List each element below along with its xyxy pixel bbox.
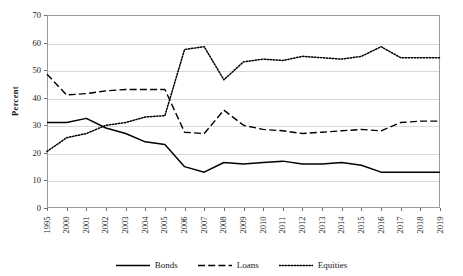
- x-axis-tick-label: 2002: [101, 216, 110, 233]
- chart-container: Percent 01020304050607019952000200120022…: [0, 0, 463, 276]
- x-axis-tick-mark: [67, 208, 68, 211]
- y-axis-tick-label: 30: [21, 121, 41, 130]
- legend-label: Loans: [237, 261, 259, 270]
- legend-entry-loans[interactable]: Loans: [198, 261, 259, 270]
- x-axis-tick-label: 2018: [415, 216, 424, 233]
- x-axis-tick-mark: [86, 208, 87, 211]
- legend-swatch-loans: [198, 261, 232, 270]
- legend-swatch-bonds: [116, 261, 150, 270]
- x-axis-tick-mark: [204, 208, 205, 211]
- x-axis-tick-mark: [342, 208, 343, 211]
- x-axis-tick-label: 2001: [81, 216, 90, 233]
- y-axis-title: Percent: [10, 66, 20, 136]
- y-axis-tick-label: 0: [21, 204, 41, 213]
- legend: BondsLoansEquities: [0, 261, 463, 270]
- x-axis-tick-mark: [361, 208, 362, 211]
- y-axis-tick-label: 50: [21, 66, 41, 75]
- x-axis-tick-label: 2004: [140, 216, 149, 233]
- x-axis-tick-mark: [322, 208, 323, 211]
- x-axis-tick-label: 2006: [180, 216, 189, 233]
- x-axis-tick-label: 2007: [199, 216, 208, 233]
- legend-label: Equities: [318, 261, 348, 270]
- legend-swatch-equities: [279, 261, 313, 270]
- x-axis-tick-mark: [401, 208, 402, 211]
- y-axis-tick-mark: [44, 208, 47, 209]
- x-axis-tick-label: 2014: [337, 216, 346, 233]
- y-axis-tick-label: 60: [21, 39, 41, 48]
- series-line-equities: [47, 47, 440, 152]
- x-axis-tick-mark: [224, 208, 225, 211]
- x-axis-tick-label: 2003: [121, 216, 130, 233]
- x-axis-tick-label: 2000: [62, 216, 71, 233]
- x-axis-tick-mark: [420, 208, 421, 211]
- x-axis-tick-label: 2017: [396, 216, 405, 233]
- x-axis-tick-mark: [302, 208, 303, 211]
- x-axis-tick-mark: [126, 208, 127, 211]
- x-axis-tick-mark: [165, 208, 166, 211]
- x-axis-tick-label: 2015: [356, 216, 365, 233]
- x-axis-tick-label: 2013: [317, 216, 326, 233]
- x-axis-tick-label: 2009: [239, 216, 248, 233]
- x-axis-tick-label: 2019: [435, 216, 444, 233]
- x-axis-tick-label: 2011: [278, 216, 287, 233]
- y-axis-tick-label: 40: [21, 94, 41, 103]
- x-axis-tick-mark: [244, 208, 245, 211]
- x-axis-tick-label: 2016: [376, 216, 385, 233]
- legend-entry-equities[interactable]: Equities: [279, 261, 348, 270]
- x-axis-tick-label: 2012: [297, 216, 306, 233]
- x-axis-tick-mark: [440, 208, 441, 211]
- x-axis-tick-mark: [47, 208, 48, 211]
- x-axis-tick-mark: [263, 208, 264, 211]
- series-line-loans: [47, 74, 440, 133]
- x-axis-tick-label: 1995: [42, 216, 51, 233]
- x-axis-tick-label: 2008: [219, 216, 228, 233]
- x-axis-tick-mark: [185, 208, 186, 211]
- x-axis-tick-label: 2005: [160, 216, 169, 233]
- x-axis-tick-mark: [381, 208, 382, 211]
- y-axis-tick-label: 70: [21, 11, 41, 20]
- x-axis-tick-mark: [283, 208, 284, 211]
- y-axis-tick-label: 10: [21, 176, 41, 185]
- x-axis-tick-mark: [106, 208, 107, 211]
- series-line-bonds: [47, 118, 440, 172]
- y-axis-tick-label: 20: [21, 149, 41, 158]
- legend-label: Bonds: [155, 261, 178, 270]
- series-plot: [47, 15, 440, 208]
- x-axis-tick-mark: [145, 208, 146, 211]
- legend-entry-bonds[interactable]: Bonds: [116, 261, 178, 270]
- x-axis-tick-label: 2010: [258, 216, 267, 233]
